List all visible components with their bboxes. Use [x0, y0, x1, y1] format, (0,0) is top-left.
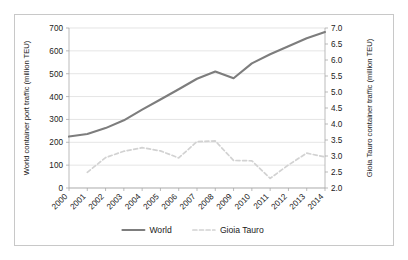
left-axis-title: World container port traffic (million TE… [22, 40, 31, 175]
x-tick-label: 2008 [196, 192, 216, 212]
left-tick-label: 100 [49, 161, 63, 170]
left-tick-label: 600 [49, 47, 63, 56]
right-tick-label: 5.5 [331, 72, 343, 81]
x-tick-label: 2004 [123, 192, 143, 212]
right-tick-label: 4.0 [331, 120, 343, 129]
series-line-world [69, 32, 325, 136]
legend-label: World [149, 225, 172, 235]
left-tick-label: 200 [49, 138, 63, 147]
right-tick-label: 6.0 [331, 56, 343, 65]
right-tick-label: 2.5 [331, 168, 343, 177]
axis-lines-group [69, 28, 325, 188]
x-tick-label: 2013 [288, 192, 308, 212]
right-tick-label: 6.5 [331, 40, 343, 49]
x-tick-label: 2003 [105, 192, 125, 212]
x-tick-label: 2002 [87, 192, 107, 212]
x-tick-label: 2009 [215, 192, 235, 212]
right-tick-label: 3.5 [331, 136, 343, 145]
gridlines-group [69, 28, 325, 188]
series-layer [69, 32, 325, 178]
chart-figure: 0100200300400500600700 2.02.53.03.54.04.… [14, 14, 394, 246]
x-tick-label: 2001 [68, 192, 88, 212]
left-tick-label: 400 [49, 93, 63, 102]
dual-axis-line-chart: 0100200300400500600700 2.02.53.03.54.04.… [15, 15, 393, 245]
x-tick-label: 2011 [252, 192, 271, 211]
legend-label: Gioia Tauro [220, 225, 264, 235]
series-line-gioia-tauro [87, 141, 325, 178]
left-tick-label: 500 [49, 70, 63, 79]
x-tick-label: 2010 [233, 192, 253, 212]
x-tick-label: 2000 [50, 192, 70, 212]
x-axis-ticks: 2000200120022003200420052006200720082009… [50, 188, 326, 211]
right-tick-label: 4.5 [331, 104, 343, 113]
right-tick-label: 3.0 [331, 152, 343, 161]
chart-legend: WorldGioia Tauro [122, 225, 264, 235]
x-tick-label: 2007 [178, 192, 198, 212]
left-tick-label: 300 [49, 115, 63, 124]
x-tick-label: 2006 [160, 192, 180, 212]
right-tick-label: 7.0 [331, 24, 343, 33]
left-axis-ticks: 0100200300400500600700 [49, 24, 69, 193]
right-axis-ticks: 2.02.53.03.54.04.55.05.56.06.57.0 [325, 24, 343, 193]
x-tick-label: 2014 [306, 192, 326, 212]
right-tick-label: 5.0 [331, 88, 343, 97]
right-axis-title: Gioia Tauro container traffic (million T… [365, 38, 374, 177]
x-tick-label: 2005 [142, 192, 162, 212]
left-tick-label: 0 [58, 184, 63, 193]
x-tick-label: 2012 [270, 192, 290, 212]
right-tick-label: 2.0 [331, 184, 343, 193]
left-tick-label: 700 [49, 24, 63, 33]
